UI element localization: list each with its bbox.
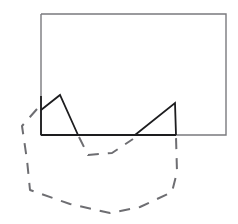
figure-canvas <box>0 0 238 224</box>
canvas-background <box>0 0 238 224</box>
